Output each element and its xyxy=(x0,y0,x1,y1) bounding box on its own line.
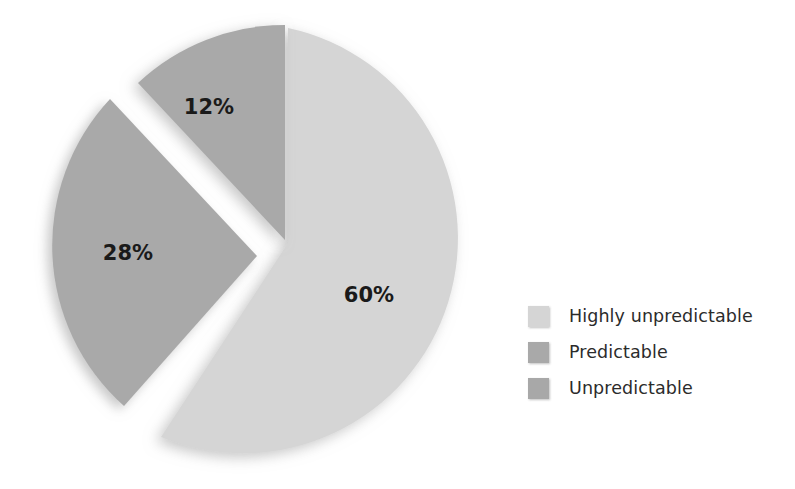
pie-chart-figure: 60% 28% 12% Highly unpredictable Predict… xyxy=(0,0,795,489)
legend-item-predictable[interactable]: Predictable xyxy=(528,334,790,370)
legend-item-label: Predictable xyxy=(569,342,668,362)
legend-item-label: Unpredictable xyxy=(569,378,693,398)
pie-chart-canvas: 60% 28% 12% xyxy=(0,0,530,489)
legend-swatch-icon xyxy=(528,342,549,363)
chart-legend: Highly unpredictable Predictable Unpredi… xyxy=(528,298,790,406)
slice-label-unpredictable: 12% xyxy=(184,95,234,119)
legend-swatch-icon xyxy=(528,378,549,399)
legend-item-unpredictable[interactable]: Unpredictable xyxy=(528,370,790,406)
legend-swatch-icon xyxy=(528,306,549,327)
legend-item-label: Highly unpredictable xyxy=(569,306,753,326)
slice-label-highly-unpredictable: 60% xyxy=(344,283,394,307)
legend-item-highly-unpredictable[interactable]: Highly unpredictable xyxy=(528,298,790,334)
slice-label-predictable: 28% xyxy=(103,241,153,265)
